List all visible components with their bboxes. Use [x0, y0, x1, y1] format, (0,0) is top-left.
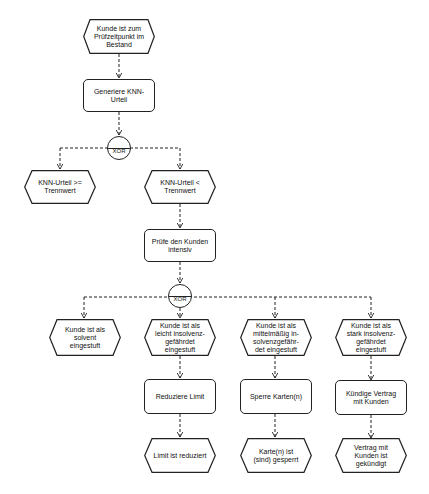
event-contract-cancelled-label: Vertrag mit Kunden ist gekündigt — [348, 444, 394, 468]
event-strong-risk-label: Kunde ist als stark insolvenz- gefährdet… — [341, 322, 402, 354]
function-check-customer-label: Prüfe den Kunden intensiv — [146, 238, 214, 254]
event-start-label: Kunde ist zum Prüfzeitpunkt im Bestand — [88, 25, 150, 49]
event-limit-reduced: Limit ist reduziert — [144, 438, 216, 473]
event-knn-below-threshold: KNN-Urteil < Trennwert — [144, 170, 216, 204]
event-strong-risk: Kunde ist als stark insolvenz- gefährdet… — [335, 319, 407, 356]
event-knn-above-label: KNN-Urteil >= Trennwert — [32, 179, 88, 195]
event-medium-risk: Kunde ist als mittelmäßig in- solvenzgef… — [240, 319, 312, 356]
event-contract-cancelled: Vertrag mit Kunden ist gekündigt — [335, 438, 407, 473]
event-cards-blocked-label: Karte(n) ist (sind) gesperrt — [247, 448, 304, 464]
function-cancel-contract-label: Kündige Vertrag mit Kunden — [340, 390, 402, 406]
function-block-cards-label: Sperre Karten(n) — [244, 393, 308, 401]
event-limit-reduced-label: Limit ist reduziert — [148, 452, 213, 460]
event-start: Kunde ist zum Prüfzeitpunkt im Bestand — [83, 19, 155, 54]
xor-connector-2: XOR — [168, 284, 192, 308]
function-generate-knn: Generiere KNN- Urteil — [83, 79, 155, 112]
event-knn-above-threshold: KNN-Urteil >= Trennwert — [24, 170, 96, 204]
event-knn-below-label: KNN-Urteil < Trennwert — [154, 179, 205, 195]
event-light-risk-label: Kunde ist als leicht insolvenz- gefährde… — [149, 322, 211, 354]
event-solvent-label: Kunde ist als solvent eingestuft — [59, 326, 111, 350]
function-reduce-limit-label: Reduziere Limit — [150, 393, 211, 401]
xor-label: XOR — [108, 148, 130, 155]
function-cancel-contract: Kündige Vertrag mit Kunden — [335, 380, 407, 415]
event-solvent: Kunde ist als solvent eingestuft — [49, 319, 121, 356]
function-reduce-limit: Reduziere Limit — [144, 379, 216, 414]
event-cards-blocked: Karte(n) ist (sind) gesperrt — [240, 438, 312, 473]
xor-label: XOR — [169, 296, 191, 303]
function-block-cards: Sperre Karten(n) — [240, 379, 312, 414]
function-generate-knn-label: Generiere KNN- Urteil — [88, 88, 150, 104]
event-light-risk: Kunde ist als leicht insolvenz- gefährde… — [144, 319, 216, 356]
xor-connector-1: XOR — [107, 136, 131, 160]
event-medium-risk-label: Kunde ist als mittelmäßig in- solvenzgef… — [247, 322, 305, 354]
function-check-customer: Prüfe den Kunden intensiv — [144, 229, 216, 262]
